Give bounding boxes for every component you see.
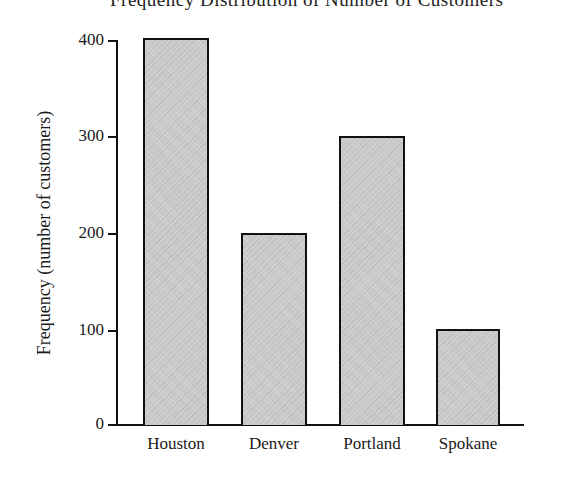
x-label-portland: Portland: [322, 434, 422, 454]
x-label-houston: Houston: [126, 434, 226, 454]
y-tick-label-400: 400: [44, 30, 104, 50]
x-label-spokane: Spokane: [418, 434, 518, 454]
bar-denver: [241, 233, 307, 425]
y-tick-200: [108, 233, 117, 235]
chart-title: Frequency Distribution of Number of Cust…: [110, 0, 503, 11]
y-tick-400: [108, 40, 117, 42]
y-tick-label-100: 100: [44, 320, 104, 340]
y-tick-0: [108, 424, 117, 426]
y-tick-300: [108, 136, 117, 138]
y-tick-label-200: 200: [44, 223, 104, 243]
x-label-denver: Denver: [224, 434, 324, 454]
bar-spokane: [436, 329, 500, 425]
y-tick-100: [108, 330, 117, 332]
y-tick-label-300: 300: [44, 126, 104, 146]
bar-houston: [143, 38, 209, 425]
y-tick-label-0: 0: [44, 414, 104, 434]
bar-portland: [339, 136, 405, 425]
